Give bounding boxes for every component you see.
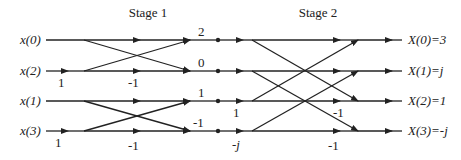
stage-1-title: Stage 1 <box>129 5 168 20</box>
stage-2-butterflies <box>218 40 402 131</box>
input-label-x2: x(2) <box>19 63 41 78</box>
weight-s1-neg-bottom: -1 <box>128 138 139 153</box>
stage-2-title: Stage 2 <box>299 5 338 20</box>
input-label-x3: x(3) <box>19 123 41 138</box>
input-label-x0: x(0) <box>19 32 41 47</box>
weight-s1-twiddle-top: 1 <box>58 75 65 90</box>
output-label-X2: X(2)=1 <box>407 93 446 108</box>
intermediate-value-2: 1 <box>198 85 205 100</box>
output-label-X3: X(3)=-j <box>407 123 448 138</box>
input-label-x1: x(1) <box>19 93 41 108</box>
intermediate-value-1: 0 <box>198 55 205 70</box>
output-label-X0: X(0)=3 <box>407 32 447 47</box>
intermediate-value-0: 2 <box>198 24 205 39</box>
output-label-X1: X(1)=j <box>407 63 444 78</box>
weight-s2-neg-row3: -1 <box>333 105 344 120</box>
weight-s1-twiddle-bottom: 1 <box>55 135 62 150</box>
weight-s2-neg-row4: -1 <box>328 138 339 153</box>
fft-butterfly-diagram: Stage 1 Stage 2 x(0) x(2) x(1) x(3) <box>0 0 461 160</box>
weight-s1-neg-top: -1 <box>128 75 139 90</box>
weight-s2-twiddle-row3: 1 <box>233 105 240 120</box>
intermediate-value-3: -1 <box>193 115 204 130</box>
weight-s2-twiddle-row4: -j <box>232 137 240 152</box>
